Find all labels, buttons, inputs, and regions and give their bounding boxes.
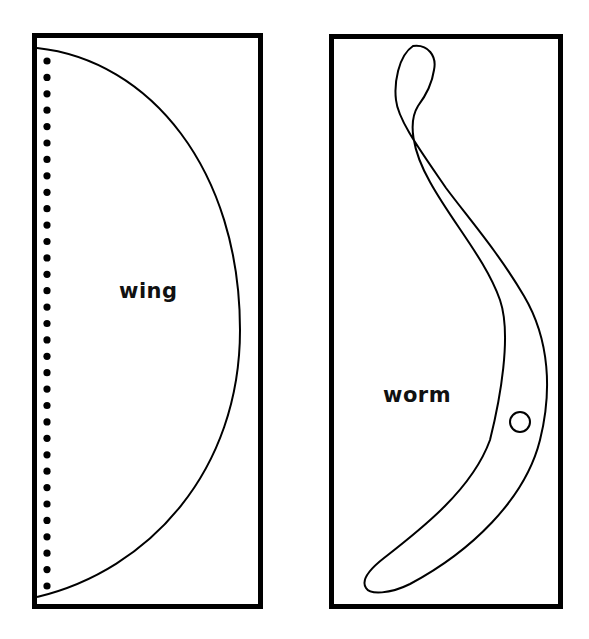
fold-dot: [43, 222, 50, 229]
fold-dot: [43, 566, 50, 573]
fold-dot: [43, 238, 50, 245]
fold-dot: [43, 123, 50, 130]
worm-label: worm: [383, 383, 451, 407]
fold-dot: [43, 418, 50, 425]
fold-dot: [43, 484, 50, 491]
fold-dot: [43, 386, 50, 393]
fold-dot: [43, 500, 50, 507]
fold-dot: [43, 582, 50, 589]
fold-dot: [43, 550, 50, 557]
fold-dot: [43, 139, 50, 146]
fold-dot: [43, 287, 50, 294]
fold-dot: [43, 172, 50, 179]
fold-dot: [43, 320, 50, 327]
fold-dot: [43, 533, 50, 540]
fold-dot: [43, 57, 50, 64]
fold-dot: [43, 304, 50, 311]
fold-dot: [43, 205, 50, 212]
fold-dot: [43, 517, 50, 524]
fold-dot: [43, 468, 50, 475]
wing-outline: [37, 48, 240, 597]
fold-dot: [43, 336, 50, 343]
fold-dot: [43, 90, 50, 97]
fold-dot: [43, 402, 50, 409]
fold-dot: [43, 451, 50, 458]
fold-dot: [43, 369, 50, 376]
wing-fold-dots: [43, 57, 50, 589]
fold-dot: [43, 271, 50, 278]
fold-dot: [43, 189, 50, 196]
worm-outline: [365, 46, 547, 593]
fold-dot: [43, 74, 50, 81]
fold-dot: [43, 107, 50, 114]
template-artwork: [0, 0, 589, 639]
fold-dot: [43, 435, 50, 442]
fold-dot: [43, 156, 50, 163]
worm-hole-circle: [510, 412, 530, 432]
fold-dot: [43, 254, 50, 261]
fold-dot: [43, 353, 50, 360]
wing-label: wing: [119, 279, 178, 303]
